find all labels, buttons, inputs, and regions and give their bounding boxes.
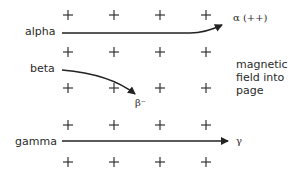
- beta-path-arrow: [62, 70, 135, 94]
- svg-text:page: page: [236, 84, 264, 97]
- beta-label: beta: [30, 62, 55, 75]
- gamma-output-label: γ: [236, 135, 242, 146]
- field-note: magnetic field into page: [236, 58, 288, 97]
- alpha-path-arrow: [62, 25, 222, 33]
- svg-text:magnetic: magnetic: [236, 58, 288, 71]
- alpha-label: alpha: [25, 25, 56, 38]
- alpha-output-label: α (++): [233, 12, 268, 23]
- gamma-label: gamma: [15, 135, 57, 148]
- beta-output-label: β⁻: [135, 97, 146, 108]
- svg-text:field into: field into: [236, 71, 285, 84]
- radiation-diagram: alpha α (++) beta β⁻ gamma γ magnetic fi…: [0, 0, 296, 183]
